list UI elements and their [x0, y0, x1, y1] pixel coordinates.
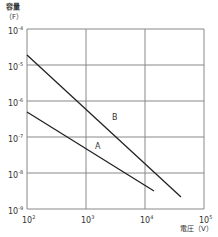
y-tick-1e-4: 10-4: [8, 24, 23, 36]
series-a-label: A: [95, 142, 100, 151]
x-axis-label: 電圧（V）: [180, 225, 213, 234]
x-tick-1e3: 103: [81, 213, 94, 225]
y-tick-1e-6: 10-6: [8, 96, 23, 108]
y-tick-1e-8: 10-8: [8, 168, 23, 180]
y-tick-1e-7: 10-7: [8, 132, 23, 144]
x-tick-1e5: 105: [199, 213, 212, 225]
series-a-line: [27, 112, 154, 191]
chart-plot: [0, 0, 218, 237]
series-b-label: B: [112, 113, 118, 122]
y-tick-1e-9: 10-9: [8, 204, 23, 216]
y-tick-1e-5: 10-5: [8, 60, 23, 72]
x-tick-1e4: 104: [140, 213, 153, 225]
x-tick-1e2: 102: [22, 213, 35, 225]
